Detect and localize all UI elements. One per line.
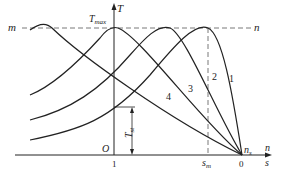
origin-label: O [102, 143, 109, 154]
curve-2 [30, 27, 242, 155]
m-label: m [8, 21, 16, 33]
zero-label: 0 [239, 159, 244, 169]
curve-1 [30, 27, 242, 155]
curve-2-label: 2 [212, 71, 217, 82]
curve-3-label: 3 [188, 83, 193, 94]
torque-speed-diagram: T Tmax m n 1 2 3 4 Tst O 1 sm 0 ns n s [0, 0, 284, 179]
curve-3 [30, 27, 242, 155]
tst-arrow-up-icon [130, 107, 134, 113]
s-one-label: 1 [112, 159, 117, 169]
s-axis-label: s [265, 157, 269, 168]
vertical-axis-arrow-icon [112, 3, 117, 10]
tst-label: Tst [123, 127, 136, 138]
tmax-label: Tmax [89, 13, 107, 26]
n-axis-label: n [265, 142, 270, 153]
sm-label: sm [202, 157, 211, 170]
curve-4-label: 4 [166, 91, 171, 102]
curve-1-label: 1 [229, 73, 234, 84]
tst-arrow-down-icon [130, 149, 134, 155]
n-line-label: n [254, 21, 260, 33]
t-axis-label: T [117, 2, 124, 14]
